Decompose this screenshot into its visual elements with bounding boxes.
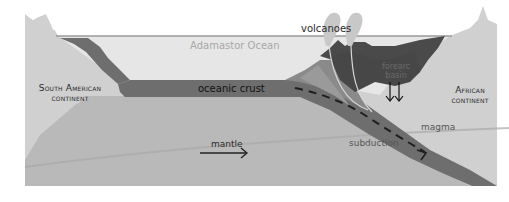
label-african-continent: African continent — [442, 85, 498, 105]
label-forearc-basin: forearc basin — [382, 62, 410, 80]
label-magma: magma — [421, 123, 455, 132]
label-forearc-line2: basin — [382, 71, 410, 80]
label-south-american-line1: South American — [34, 83, 106, 93]
label-south-american-line2: continent — [34, 93, 106, 103]
subduction-diagram: volcanoes Adamastor Ocean South American… — [0, 0, 509, 202]
label-adamastor-ocean: Adamastor Ocean — [190, 41, 280, 51]
label-african-line2: continent — [442, 95, 498, 105]
label-forearc-line1: forearc — [382, 62, 410, 71]
label-subduction: subduction — [349, 139, 399, 148]
label-south-american-continent: South American continent — [34, 83, 106, 103]
label-african-line1: African — [442, 85, 498, 95]
label-oceanic-crust: oceanic crust — [198, 84, 265, 94]
label-mantle: mantle — [211, 140, 243, 149]
label-volcanoes: volcanoes — [301, 24, 351, 34]
